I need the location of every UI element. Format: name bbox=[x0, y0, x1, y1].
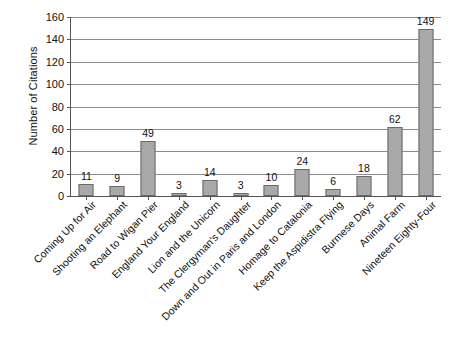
y-tick-label: 100 bbox=[4, 78, 64, 90]
bar-slot: 3 bbox=[164, 17, 195, 196]
y-tick-label: 120 bbox=[4, 56, 64, 68]
y-tick-label: 80 bbox=[4, 101, 64, 113]
bar-value-label: 9 bbox=[114, 172, 120, 184]
bar-slot: 149 bbox=[410, 17, 441, 196]
bar-value-label: 49 bbox=[142, 127, 154, 139]
bar-value-label: 6 bbox=[330, 175, 336, 187]
x-axis-category-labels: Coming Up for AirShooting an ElephantRoa… bbox=[70, 197, 440, 337]
bar-slot: 18 bbox=[349, 17, 380, 196]
bar-slot: 6 bbox=[318, 17, 349, 196]
bar[interactable] bbox=[418, 29, 433, 196]
bar[interactable] bbox=[141, 141, 156, 196]
bar[interactable] bbox=[264, 185, 279, 196]
bar[interactable] bbox=[387, 127, 402, 196]
bar-value-label: 18 bbox=[358, 162, 370, 174]
bar-slot: 49 bbox=[133, 17, 164, 196]
bar-value-label: 11 bbox=[81, 170, 92, 182]
y-tick-label: 140 bbox=[4, 33, 64, 45]
y-tick-mark bbox=[67, 151, 71, 152]
y-tick-label: 20 bbox=[4, 168, 64, 180]
bar-slot: 62 bbox=[379, 17, 410, 196]
bar-slot: 10 bbox=[256, 17, 287, 196]
y-tick-mark bbox=[67, 129, 71, 130]
citations-bar-chart: Number of Citations 02040608010012014016… bbox=[0, 0, 469, 346]
y-tick-mark bbox=[67, 174, 71, 175]
y-tick-label: 0 bbox=[4, 190, 64, 202]
y-tick-mark bbox=[67, 39, 71, 40]
bar-value-label: 3 bbox=[238, 179, 244, 191]
bar[interactable] bbox=[202, 180, 217, 196]
y-tick-mark bbox=[67, 84, 71, 85]
bars-group: 119493143102461862149 bbox=[71, 17, 441, 196]
y-tick-mark bbox=[67, 62, 71, 63]
bar-value-label: 3 bbox=[176, 179, 182, 191]
bar[interactable] bbox=[295, 169, 310, 196]
bar-value-label: 10 bbox=[266, 171, 278, 183]
plot-area: 119493143102461862149 bbox=[70, 17, 441, 197]
bar[interactable] bbox=[326, 189, 341, 196]
bar-slot: 14 bbox=[194, 17, 225, 196]
bar-slot: 11 bbox=[71, 17, 102, 196]
y-tick-label: 40 bbox=[4, 145, 64, 157]
bar[interactable] bbox=[110, 186, 125, 196]
bar[interactable] bbox=[356, 176, 371, 196]
bar-slot: 9 bbox=[102, 17, 133, 196]
y-axis-tick-labels: 020406080100120140160 bbox=[0, 17, 64, 196]
bar-value-label: 14 bbox=[204, 166, 216, 178]
bar-slot: 24 bbox=[287, 17, 318, 196]
bar-value-label: 149 bbox=[417, 15, 435, 27]
y-tick-label: 160 bbox=[4, 11, 64, 23]
y-tick-mark bbox=[67, 17, 71, 18]
y-tick-label: 60 bbox=[4, 123, 64, 135]
bar[interactable] bbox=[79, 184, 94, 196]
bar-value-label: 62 bbox=[389, 113, 401, 125]
y-tick-mark bbox=[67, 107, 71, 108]
bar-slot: 3 bbox=[225, 17, 256, 196]
bar-value-label: 24 bbox=[296, 155, 308, 167]
